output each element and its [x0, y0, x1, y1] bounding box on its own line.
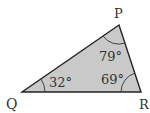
vertex-label-q: Q: [6, 96, 17, 112]
triangle-diagram: P Q R 79° 32° 69°: [0, 0, 150, 113]
vertex-label-r: R: [139, 97, 150, 112]
angle-label-p: 79°: [99, 49, 122, 64]
vertex-label-p: P: [114, 6, 123, 21]
triangle-figure: P Q R 79° 32° 69°: [0, 0, 150, 113]
angle-label-r: 69°: [101, 72, 124, 87]
angle-label-q: 32°: [49, 75, 72, 90]
